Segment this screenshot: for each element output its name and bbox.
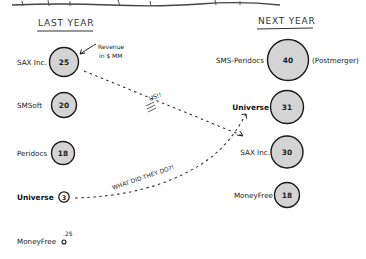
svg-text:in $ MM: in $ MM [99,52,122,59]
right-item-smsperidocs: SMS-Peridocs 40 (Postmerger) [216,40,359,81]
arrow-icon [80,44,96,54]
annotation-revenue-unit: Revenue in $ MM [80,43,124,59]
bubble-moneyfree-last-year [62,240,66,244]
arrowhead-icon [242,114,247,119]
svg-text:WHAT DID THEY DO?!: WHAT DID THEY DO?! [111,163,175,191]
svg-text:SMSoft: SMSoft [17,101,42,110]
svg-text:20: 20 [59,101,69,110]
svg-text:SAX Inc.: SAX Inc. [240,148,270,157]
svg-text:18: 18 [282,191,292,200]
heading-last-year: LAST YEAR [37,18,94,31]
svg-text:(Postmerger): (Postmerger) [312,56,359,65]
arrowhead-icon [237,131,243,136]
left-item-peridocs: Peridocs 18 [17,142,75,165]
svg-text:Revenue: Revenue [98,43,124,50]
cropped-header-strip [12,0,280,6]
svg-text:Universe: Universe [17,193,54,202]
svg-text:.25: .25 [63,230,73,237]
svg-text:40: 40 [283,56,293,65]
left-item-sax: SAX Inc. 25 [17,48,79,77]
svg-text:SAX Inc.: SAX Inc. [17,58,47,67]
svg-text:25: 25 [59,58,69,67]
revenue-bubble-diagram: LAST YEAR NEXT YEAR SAX Inc. 25 Revenue … [0,0,366,259]
svg-text:3: 3 [62,194,67,202]
left-item-smsoft: SMSoft 20 [17,93,77,118]
connector-universe: WHAT DID THEY DO?! [75,114,247,198]
right-item-moneyfree: MoneyFree 18 [234,183,300,208]
svg-text:SMS-Peridocs: SMS-Peridocs [216,56,264,65]
right-item-sax: SAX Inc. 30 [240,136,303,168]
svg-text:31: 31 [282,103,292,112]
svg-text:LAST YEAR: LAST YEAR [38,18,94,28]
svg-text:Universe: Universe [232,103,269,112]
svg-text:30: 30 [282,148,292,157]
svg-text:NEXT YEAR: NEXT YEAR [258,16,316,26]
heading-next-year: NEXT YEAR [257,16,316,29]
connector-sax: US!! [84,71,243,136]
left-item-moneyfree: MoneyFree .25 [17,230,73,246]
right-item-universe: Universe 31 [232,91,303,124]
left-item-universe: Universe 3 [17,192,69,202]
svg-text:US!!: US!! [148,91,163,102]
svg-text:18: 18 [58,149,68,158]
svg-text:MoneyFree: MoneyFree [234,191,274,200]
svg-text:Peridocs: Peridocs [17,149,47,158]
svg-text:MoneyFree: MoneyFree [17,237,57,246]
